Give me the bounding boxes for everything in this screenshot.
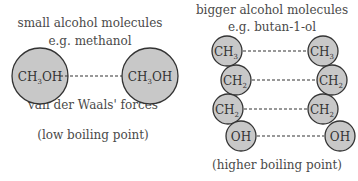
butanol-molecule-left: CH3 CH2 CH2 OH bbox=[212, 36, 256, 151]
butanol-molecule-right: CH3 CH2 CH2 OH bbox=[308, 36, 355, 151]
molecule-diagram: CH3OH CH3OH CH3 CH2 CH2 OH CH3 CH2 CH2 O… bbox=[0, 0, 358, 181]
svg-text:OH: OH bbox=[231, 130, 251, 144]
methanol-molecule-right: CH3OH bbox=[122, 48, 178, 104]
methanol-molecule-left: CH3OH bbox=[12, 48, 68, 104]
svg-text:OH: OH bbox=[330, 130, 350, 144]
